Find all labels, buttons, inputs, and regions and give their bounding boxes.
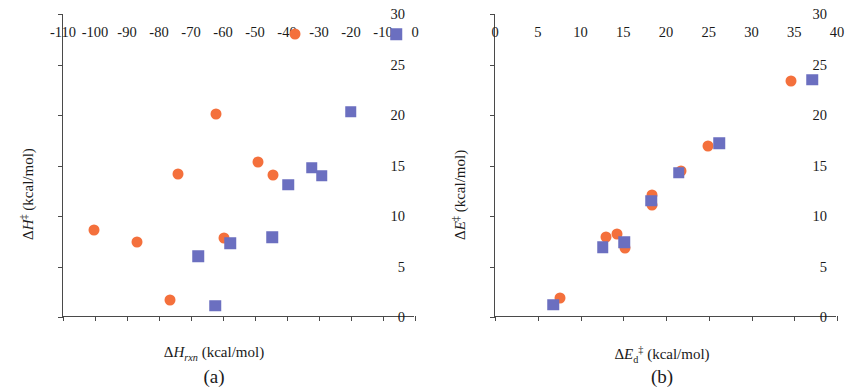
data-point-circle [131,237,142,248]
x-axis-tick-label: 10 [573,25,588,40]
y-axis-tick-label: 15 [813,158,828,173]
panel-b: 0510152025300510152025303540 ΔEd‡ (kcal/… [428,0,856,392]
data-point-square [618,237,630,249]
y-axis-tick-label: 5 [820,259,827,274]
x-axis-tick-label: 20 [659,25,674,40]
data-point-circle [267,169,278,180]
x-axis-tick [538,316,539,321]
y-axis-tick-label: 0 [398,310,405,325]
y-axis-title-b: ΔE‡ (kcal/mol) [450,150,469,240]
x-axis-tick [255,316,256,321]
scatter-figure: 051015202530-110-100-90-80-70-60-50-40-3… [0,0,857,392]
x-axis-tick [95,316,96,321]
y-axis-tick [490,14,495,15]
x-axis-tick-label: -60 [213,25,232,40]
x-axis-tick-label: 30 [744,25,759,40]
x-axis-tick [752,316,753,321]
data-point-square [283,179,295,191]
data-point-circle [89,225,100,236]
data-point-square [390,28,402,40]
y-axis-tick-label: 30 [391,7,406,22]
data-point-square [316,170,328,182]
y-axis-tick [490,115,495,116]
data-point-circle [290,29,301,40]
panel-a: 051015202530-110-100-90-80-70-60-50-40-3… [0,0,428,392]
y-axis-tick [58,216,63,217]
y-axis-tick-label: 15 [391,158,406,173]
x-axis-tick-label: -110 [50,25,76,40]
data-point-circle [164,294,175,305]
y-axis-tick [58,166,63,167]
data-point-circle [210,108,221,119]
x-axis-tick [623,316,624,321]
data-point-square [646,195,658,207]
x-axis-tick [351,316,352,321]
data-point-square [267,231,279,243]
data-point-square [345,106,357,118]
x-axis-tick [581,316,582,321]
y-axis-tick-label: 20 [391,108,406,123]
x-axis-tick-label: -70 [181,25,200,40]
data-point-circle [702,141,713,152]
y-axis-tick [490,65,495,66]
x-axis-tick [495,316,496,321]
x-axis-tick [223,316,224,321]
x-axis-title-b: ΔEd‡ (kcal/mol) [448,344,857,365]
data-point-circle [172,168,183,179]
y-axis-tick [490,166,495,167]
y-axis-tick-label: 10 [813,209,828,224]
x-axis-tick-label: 25 [702,25,717,40]
x-axis-tick-label: -20 [341,25,360,40]
x-axis-tick [709,316,710,321]
panel-caption-b: (b) [448,366,857,388]
x-axis-tick [191,316,192,321]
data-point-square [713,138,725,150]
y-axis-tick [58,115,63,116]
y-axis-tick [490,267,495,268]
x-axis-tick [837,316,838,321]
x-axis-tick-label: -100 [82,25,109,40]
data-point-square [209,300,221,312]
x-axis-tick [666,316,667,321]
y-axis-tick [58,14,63,15]
x-axis-tick [287,316,288,321]
data-point-circle [252,157,263,168]
data-point-circle [785,75,796,86]
data-point-square [597,242,609,254]
y-axis-tick-label: 20 [813,108,828,123]
x-axis-tick [63,316,64,321]
data-point-square [192,251,204,263]
y-axis-tick [58,65,63,66]
x-axis-title-a: ΔHrxn (kcal/mol) [0,344,428,363]
x-axis-tick-label: -90 [117,25,136,40]
y-axis-tick-label: 10 [391,209,406,224]
x-axis-tick-label: 35 [787,25,802,40]
x-axis-tick-label: 15 [616,25,631,40]
x-axis-tick [383,316,384,321]
x-axis-tick [127,316,128,321]
plot-area-a: 051015202530-110-100-90-80-70-60-50-40-3… [62,14,414,317]
x-axis-tick-label: -30 [309,25,328,40]
x-axis-tick-label: 40 [830,25,845,40]
y-axis-tick [490,216,495,217]
panel-caption-a: (a) [0,366,428,388]
x-axis-tick-label: 5 [534,25,541,40]
data-point-square [547,299,559,311]
x-axis-tick-label: -50 [245,25,264,40]
x-axis-tick [794,316,795,321]
x-axis-tick [319,316,320,321]
x-axis-tick-label: 0 [411,25,418,40]
x-axis-tick-label: -80 [149,25,168,40]
x-axis-tick [415,316,416,321]
x-axis-tick-label: 0 [491,25,498,40]
y-axis-tick-label: 0 [820,310,827,325]
plot-area-b: 0510152025300510152025303540 [494,14,836,317]
data-point-square [806,74,818,86]
y-axis-title-a: ΔH‡ (kcal/mol) [18,148,37,240]
y-axis-tick-label: 25 [391,57,406,72]
x-axis-tick [159,316,160,321]
y-axis-tick-label: 25 [813,57,828,72]
y-axis-tick-label: 30 [813,7,828,22]
data-point-square [225,238,237,250]
y-axis-tick-label: 5 [398,259,405,274]
